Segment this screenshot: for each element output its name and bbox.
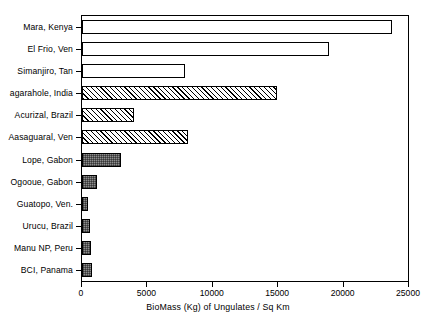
bar-10 xyxy=(82,219,90,233)
category-tick-mark xyxy=(76,204,81,205)
category-label: Ogooue, Gabon xyxy=(11,176,73,188)
category-tick-mark xyxy=(76,160,81,161)
x-axis-title: BioMass (Kg) of Ungulates / Sq Km xyxy=(0,301,436,313)
bar-6 xyxy=(82,130,188,144)
category-label: agarahole, India xyxy=(10,87,73,99)
biomass-bar-chart: Mara, KenyaEl Frio, VenSimanjiro, Tanaga… xyxy=(0,0,436,329)
category-tick-mark xyxy=(76,137,81,138)
bar-1 xyxy=(82,20,392,34)
x-axis-tick-mark xyxy=(212,282,213,287)
x-axis-tick-label: 5000 xyxy=(137,288,156,299)
category-tick-mark xyxy=(76,248,81,249)
category-label: BCI, Panama xyxy=(21,264,73,276)
bar-11 xyxy=(82,241,91,255)
category-label: Acurizal, Brazil xyxy=(15,109,73,121)
category-tick-mark xyxy=(76,115,81,116)
bar-12 xyxy=(82,263,92,277)
category-tick-mark xyxy=(76,93,81,94)
bar-9 xyxy=(82,197,88,211)
category-label: Aasaguaral, Ven xyxy=(8,131,73,143)
bars-layer xyxy=(82,16,409,281)
category-label: El Frio, Ven xyxy=(27,43,73,55)
x-axis-tick-mark xyxy=(146,282,147,287)
x-axis-tick-label: 10000 xyxy=(200,288,224,299)
category-label: Mara, Kenya xyxy=(23,21,73,33)
bar-4 xyxy=(82,86,277,100)
bar-2 xyxy=(82,42,329,56)
category-tick-mark xyxy=(76,49,81,50)
category-tick-mark xyxy=(76,27,81,28)
x-axis-tick-label: 15000 xyxy=(265,288,289,299)
bar-5 xyxy=(82,108,134,122)
bar-3 xyxy=(82,64,185,78)
category-tick-mark xyxy=(76,226,81,227)
category-label: Manu NP, Peru xyxy=(14,242,73,254)
category-tick-mark xyxy=(76,71,81,72)
category-label: Guatopo, Ven. xyxy=(17,198,73,210)
x-axis-tick-mark xyxy=(343,282,344,287)
x-axis-tick-mark xyxy=(408,282,409,287)
category-tick-mark xyxy=(76,182,81,183)
category-axis: Mara, KenyaEl Frio, VenSimanjiro, Tanaga… xyxy=(0,16,81,281)
x-axis-tick-label: 0 xyxy=(79,288,84,299)
x-axis-tick-label: 25000 xyxy=(396,288,420,299)
category-label: Lope, Gabon xyxy=(22,154,73,166)
x-axis-tick-mark xyxy=(277,282,278,287)
bar-7 xyxy=(82,153,121,167)
category-tick-mark xyxy=(76,270,81,271)
category-label: Urucu, Brazil xyxy=(23,220,74,232)
x-axis-tick-label: 20000 xyxy=(331,288,355,299)
category-label: Simanjiro, Tan xyxy=(17,65,73,77)
bar-8 xyxy=(82,175,97,189)
x-axis-tick-mark xyxy=(81,282,82,287)
